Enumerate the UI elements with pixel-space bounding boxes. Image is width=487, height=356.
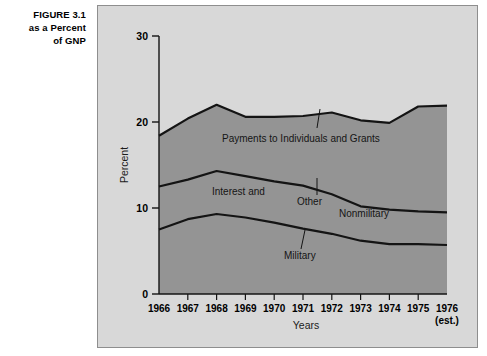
x-tick-label: 1966 bbox=[148, 303, 171, 314]
x-tick-label: 1969 bbox=[234, 303, 257, 314]
y-tick-label: 30 bbox=[136, 30, 148, 42]
x-tick-label: 1975 bbox=[407, 303, 430, 314]
series-label-interest-and: Interest and bbox=[212, 186, 265, 197]
y-tick-label: 0 bbox=[142, 288, 148, 300]
x-tick-label: 1970 bbox=[263, 303, 286, 314]
x-tick-label: 1967 bbox=[177, 303, 200, 314]
series-label-payments-to-individuals: Payments to Individuals and Grants bbox=[222, 133, 380, 144]
x-tick-label: 1976 bbox=[436, 303, 459, 314]
series-label-other: Other bbox=[297, 196, 323, 207]
x-tick-label: 1971 bbox=[292, 303, 315, 314]
x-axis-title: Years bbox=[293, 319, 319, 331]
y-tick-label: 20 bbox=[136, 116, 148, 128]
x-tick-note: (est.) bbox=[435, 315, 459, 326]
x-tick-label: 1973 bbox=[349, 303, 372, 314]
y-axis: 0102030 bbox=[136, 30, 159, 300]
figure-caption-line-3: of GNP bbox=[0, 34, 86, 47]
x-tick-label: 1972 bbox=[321, 303, 344, 314]
figure-caption-line-1: FIGURE 3.1 bbox=[0, 8, 86, 21]
chart-plot-area: 0102030 19661967196819691970197119721973… bbox=[98, 6, 479, 349]
series-label-nonmilitary: Nonmilitary bbox=[339, 208, 389, 219]
figure-caption-line-2: as a Percent bbox=[0, 21, 86, 34]
area-chart-svg: 0102030 19661967196819691970197119721973… bbox=[98, 6, 479, 349]
series-label-military: Military bbox=[284, 250, 316, 261]
x-tick-label: 1974 bbox=[378, 303, 401, 314]
y-axis-ticks: 0102030 bbox=[136, 30, 159, 300]
x-tick-label: 1968 bbox=[205, 303, 228, 314]
figure-caption: FIGURE 3.1 as a Percent of GNP bbox=[0, 8, 86, 47]
chart-frame: 0102030 19661967196819691970197119721973… bbox=[97, 5, 478, 348]
y-axis-title: Percent bbox=[118, 147, 130, 183]
y-tick-label: 10 bbox=[136, 202, 148, 214]
